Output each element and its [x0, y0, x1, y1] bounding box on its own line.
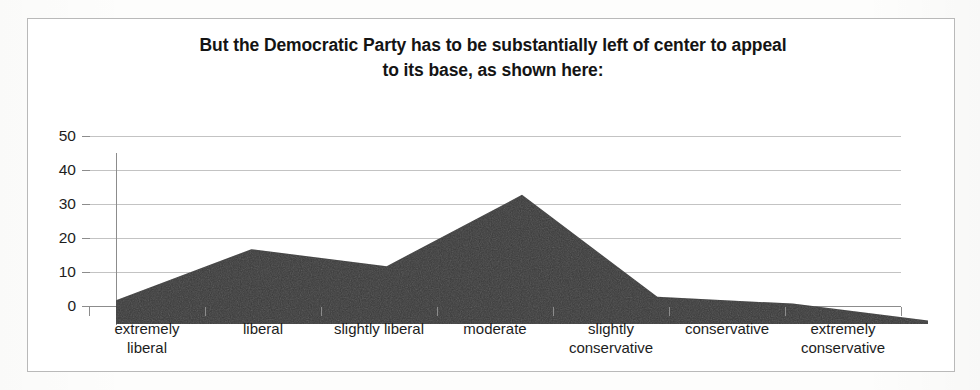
x-axis-tick — [437, 307, 438, 316]
y-axis-tick — [82, 204, 90, 205]
x-axis-tick — [669, 307, 670, 316]
y-axis-tick-label: 50 — [30, 128, 76, 144]
y-axis-tick-label: 10 — [30, 264, 76, 280]
gridline — [89, 136, 901, 137]
x-axis-tick — [785, 307, 786, 316]
x-axis-category-label-line: extremely — [773, 319, 913, 338]
x-axis-tick — [553, 307, 554, 316]
plot-area — [116, 154, 928, 324]
x-axis-tick — [89, 307, 90, 316]
chart-title-line-1: But the Democratic Party has to be subst… — [88, 33, 898, 58]
x-axis-category-label-line: liberal — [77, 338, 217, 357]
y-axis-tick — [82, 272, 90, 273]
x-axis-category-label-line: conservative — [773, 338, 913, 357]
chart-title-line-2: to its base, as shown here: — [88, 58, 898, 83]
y-axis-tick — [82, 238, 90, 239]
x-axis-tick — [205, 307, 206, 316]
chart-frame: But the Democratic Party has to be subst… — [27, 18, 955, 372]
area-series — [116, 154, 928, 324]
y-axis-tick-label: 0 — [30, 298, 76, 314]
y-axis-tick-label: 20 — [30, 230, 76, 246]
y-axis-tick — [82, 136, 90, 137]
chart-title: But the Democratic Party has to be subst… — [88, 33, 898, 83]
y-axis-tick-label: 40 — [30, 162, 76, 178]
x-axis-category-label-line: conservative — [541, 338, 681, 357]
x-axis-category-label: extremelyconservative — [773, 319, 913, 357]
y-axis-tick — [82, 170, 90, 171]
x-axis-tick — [901, 307, 902, 316]
y-axis-tick-label: 30 — [30, 196, 76, 212]
x-axis-tick — [321, 307, 322, 316]
